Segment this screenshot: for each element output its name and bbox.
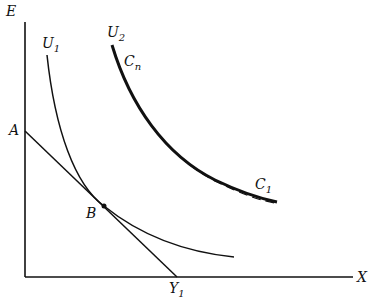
curve-cn-label: Cn bbox=[124, 53, 141, 72]
indifference-curve-u1 bbox=[47, 55, 234, 257]
point-y1-label: Y1 bbox=[169, 280, 185, 299]
point-a-label: A bbox=[7, 122, 19, 138]
point-b-marker bbox=[102, 204, 107, 209]
curve-c1-label: C1 bbox=[255, 176, 272, 195]
consumption-curve-c bbox=[114, 50, 275, 203]
point-b-label: B bbox=[85, 205, 96, 221]
curve-u2-label: U2 bbox=[107, 24, 125, 43]
indifference-curve-diagram: E X A B Y1 U1 U2 Cn C1 bbox=[0, 0, 373, 308]
x-axis-label: X bbox=[356, 269, 368, 285]
curve-u1-label: U1 bbox=[42, 35, 60, 54]
y-axis-label: E bbox=[5, 3, 16, 19]
